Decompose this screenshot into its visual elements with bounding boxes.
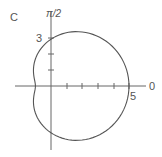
polar-plot: C π/2 0 5 3	[0, 0, 162, 157]
x-tick-label: 5	[130, 90, 136, 102]
polar-axis-label: 0	[149, 80, 155, 92]
panel-label: C	[10, 11, 18, 23]
vertical-axis-label: π/2	[46, 8, 61, 19]
y-tick-label: 3	[36, 32, 42, 44]
